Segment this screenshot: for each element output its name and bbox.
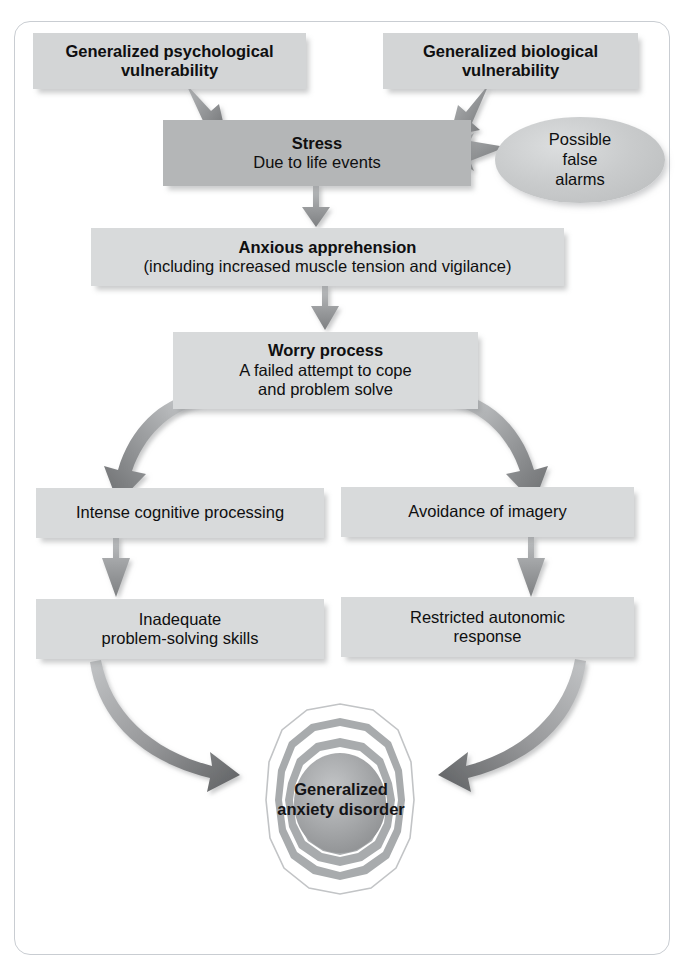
node-subtitle: vulnerability [121,61,218,80]
arrow-intense-to-inadequate [102,536,130,597]
node-subtitle: A failed attempt to cope [239,361,411,380]
oval-line-2: false [563,150,598,170]
arrow-avoidance-to-restricted [517,536,545,597]
node-title: Worry process [268,341,383,360]
figure-canvas: Generalized psychological vulnerability … [0,0,679,980]
arrow-anxious-to-worry [311,285,339,330]
node-title: Stress [292,134,342,153]
node-intense-cognitive-processing: Intense cognitive processing [36,488,324,538]
arrow-inadequate-to-gad [90,660,240,792]
node-title: Generalized psychological [65,42,273,61]
node-subtitle: problem-solving skills [102,629,259,648]
node-subtitle: vulnerability [462,61,559,80]
arrow-stress-to-anxious [302,184,330,227]
oval-line-1: Possible [549,130,611,150]
node-title: Intense cognitive processing [76,503,284,522]
node-subtitle: response [454,627,522,646]
node-title: Inadequate [139,610,222,629]
node-inadequate-problem-solving-skills: Inadequate problem-solving skills [36,599,324,659]
node-subtitle: Due to life events [253,153,381,172]
node-worry-process: Worry process A failed attempt to cope a… [173,332,478,409]
node-subtitle: (including increased muscle tension and … [144,257,512,276]
oval-line-3: alarms [555,170,605,190]
node-title: Avoidance of imagery [408,502,566,521]
node-restricted-autonomic-response: Restricted autonomic response [341,597,634,657]
arrow-restricted-to-gad [438,659,586,792]
node-generalized-biological-vulnerability: Generalized biological vulnerability [383,33,638,89]
node-stress: Stress Due to life events [163,120,471,186]
gad-target [266,704,414,894]
node-title: Anxious apprehension [239,238,417,257]
node-subtitle-2: and problem solve [258,380,393,399]
node-title: Restricted autonomic [410,608,565,627]
node-avoidance-of-imagery: Avoidance of imagery [341,487,634,537]
node-generalized-psychological-vulnerability: Generalized psychological vulnerability [33,33,306,89]
node-possible-false-alarms: Possible false alarms [495,117,665,203]
node-anxious-apprehension: Anxious apprehension (including increase… [91,228,564,286]
gad-core [294,753,386,853]
node-title: Generalized biological [423,42,598,61]
